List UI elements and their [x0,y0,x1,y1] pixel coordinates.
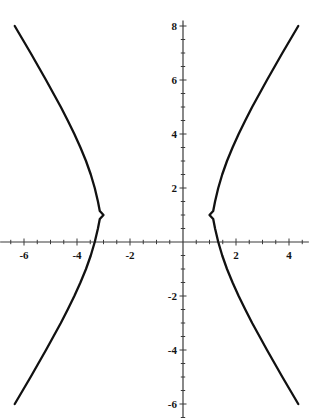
y-tick-label: -6 [159,399,177,410]
y-tick-label: 8 [159,21,177,32]
y-tick-label: 4 [159,129,177,140]
x-tick-label: -4 [70,250,84,261]
curve-left-branch [15,26,104,404]
y-tick-label: 2 [159,183,177,194]
x-tick-label: -2 [123,250,137,261]
y-tick-label: -4 [159,345,177,356]
y-tick-label: 6 [159,75,177,86]
curve-right-branch [210,26,299,404]
plot-canvas [0,0,309,418]
clipped-header-text [0,0,309,2]
curves-group [15,26,299,404]
y-tick-label: -2 [159,291,177,302]
x-tick-label: 4 [282,250,296,261]
hyperbola-plot: -6-4-2248642-2-4-6 [0,0,309,418]
x-tick-label: -6 [17,250,31,261]
x-tick-label: 2 [229,250,243,261]
